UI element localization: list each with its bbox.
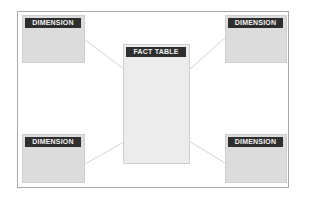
dimension-box-bottom-right: DIMENSION (225, 134, 287, 183)
connector-bottom-right (189, 141, 225, 163)
dimension-box-bottom-left: DIMENSION (22, 134, 85, 183)
dimension-header: DIMENSION (228, 18, 283, 28)
dimension-box-top-left: DIMENSION (22, 15, 85, 63)
fact-table-header: FACT TABLE (126, 47, 186, 57)
dimension-box-top-right: DIMENSION (225, 15, 287, 63)
connector-top-right (189, 38, 225, 70)
dimension-header: DIMENSION (25, 18, 81, 28)
dimension-header: DIMENSION (25, 137, 81, 147)
connector-bottom-left (85, 142, 124, 164)
dimension-header: DIMENSION (228, 137, 283, 147)
fact-table-box: FACT TABLE (123, 44, 190, 164)
connector-top-left (85, 40, 124, 69)
